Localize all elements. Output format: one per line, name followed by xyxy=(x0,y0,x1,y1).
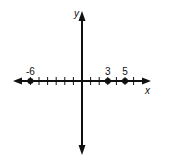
point-label: 5 xyxy=(122,66,128,77)
point-marker xyxy=(27,78,33,84)
x-axis-label: x xyxy=(144,85,151,96)
x-axis-left-arrow-icon xyxy=(13,78,22,85)
y-axis-down-arrow-icon xyxy=(79,145,86,155)
y-axis-up-arrow-icon xyxy=(79,11,86,21)
point-label: 3 xyxy=(105,66,111,77)
y-axis-label: y xyxy=(73,8,80,19)
point-marker xyxy=(122,78,128,84)
point-label: -6 xyxy=(26,66,35,77)
x-axis-right-arrow-icon xyxy=(142,78,151,85)
axes-group xyxy=(13,11,151,155)
point-marker xyxy=(105,78,111,84)
coordinate-axes: -635 x y xyxy=(0,0,171,162)
